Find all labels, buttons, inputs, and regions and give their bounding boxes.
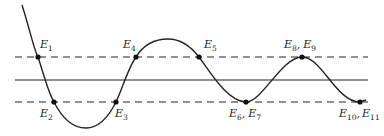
point-e2: [51, 99, 56, 104]
label-e1: E1: [39, 38, 53, 53]
point-e5: [196, 54, 201, 59]
waveform-curve: [22, 5, 366, 128]
point-e6-e7: [243, 99, 248, 104]
point-e8-e9: [299, 54, 304, 59]
point-e4: [133, 54, 138, 59]
point-e1: [35, 54, 40, 59]
label-e10-e11: E10,E11: [338, 107, 380, 122]
label-e5: E5: [203, 38, 217, 53]
point-e10-e11: [357, 99, 362, 104]
label-e8-e9: E8,E9: [283, 38, 316, 53]
point-e3: [113, 99, 118, 104]
label-e2: E2: [39, 107, 53, 122]
label-e4: E4: [122, 38, 136, 53]
event-waveform-diagram: E1 E2 E3 E4 E5 E6,E7 E8,E9 E10,E11: [0, 0, 384, 136]
label-e6-e7: E6,E7: [228, 107, 261, 122]
label-e3: E3: [114, 107, 128, 122]
